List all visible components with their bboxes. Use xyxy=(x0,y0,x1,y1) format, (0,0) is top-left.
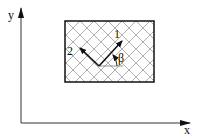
vector-2-label: 2 xyxy=(67,44,73,58)
x-axis-label: x xyxy=(184,123,190,137)
y-axis-label: y xyxy=(8,8,14,22)
vector-1-label: 1 xyxy=(114,27,120,41)
angle-label: β xyxy=(118,51,124,65)
fiber-orientation-diagram: y x 1 2 β xyxy=(0,0,202,138)
laminate-region xyxy=(65,21,154,82)
